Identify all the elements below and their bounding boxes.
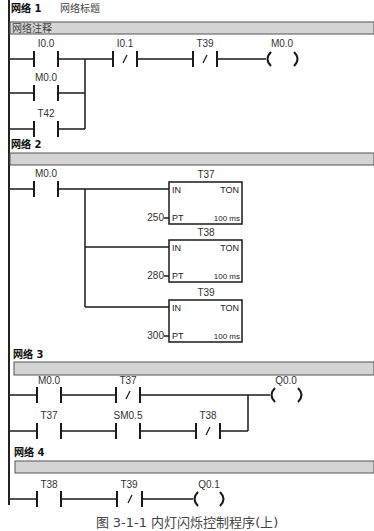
svg-text:T37: T37 bbox=[119, 375, 137, 386]
svg-text:100 ms: 100 ms bbox=[214, 332, 240, 341]
svg-text:T38: T38 bbox=[199, 410, 217, 421]
contact-nc-t39[interactable]: T39 bbox=[193, 38, 217, 67]
svg-text:TON: TON bbox=[220, 303, 239, 313]
svg-text:SM0.5: SM0.5 bbox=[114, 410, 143, 421]
network-1-label: 网络 1 bbox=[11, 2, 41, 14]
svg-text:IN: IN bbox=[172, 185, 181, 195]
timer-preset-t39[interactable]: 300 bbox=[147, 330, 164, 341]
coil-m0-0[interactable]: M0.0 bbox=[268, 38, 298, 66]
contact-no-t37[interactable]: T37 bbox=[37, 410, 61, 439]
svg-text:T39: T39 bbox=[196, 38, 214, 49]
network-4[interactable]: 网络 4 T38 T39 Q0.1 bbox=[10, 446, 374, 507]
coil-q0-0[interactable]: Q0.0 bbox=[272, 375, 302, 402]
svg-text:T38: T38 bbox=[40, 479, 58, 490]
svg-text:T38: T38 bbox=[197, 227, 215, 238]
svg-text:T39: T39 bbox=[120, 479, 138, 490]
svg-text:T42: T42 bbox=[37, 108, 55, 119]
contact-no-m0-0[interactable]: M0.0 bbox=[34, 168, 58, 197]
svg-text:100 ms: 100 ms bbox=[214, 214, 240, 223]
contact-nc-t37[interactable]: T37 bbox=[116, 375, 140, 403]
network-4-comment-bar[interactable] bbox=[15, 461, 374, 473]
svg-text:Q0.0: Q0.0 bbox=[275, 375, 297, 386]
svg-text:PT: PT bbox=[172, 213, 184, 223]
contact-no-t42-branch[interactable]: T42 bbox=[34, 108, 58, 137]
network-1[interactable]: 网络 1 网络标题 网络注释 I0.0 I0.1 bbox=[10, 2, 374, 137]
network-2-label: 网络 2 bbox=[11, 138, 41, 150]
svg-text:M0.0: M0.0 bbox=[38, 375, 61, 386]
svg-text:T37: T37 bbox=[197, 169, 215, 180]
network-1-comment-bar[interactable] bbox=[10, 22, 374, 34]
svg-text:I0.1: I0.1 bbox=[117, 38, 134, 49]
svg-text:TON: TON bbox=[220, 185, 239, 195]
svg-text:Q0.1: Q0.1 bbox=[198, 479, 220, 490]
timer-box-t38[interactable]: T38 IN TON PT 100 ms 280 bbox=[147, 227, 242, 282]
svg-text:M0.0: M0.0 bbox=[35, 168, 58, 179]
svg-text:M0.0: M0.0 bbox=[35, 72, 58, 83]
contact-no-i0-0[interactable]: I0.0 bbox=[34, 38, 58, 67]
svg-text:T37: T37 bbox=[40, 410, 58, 421]
contact-nc-t38[interactable]: T38 bbox=[196, 410, 220, 439]
contact-no-m0-0-n3[interactable]: M0.0 bbox=[37, 375, 61, 403]
svg-text:T39: T39 bbox=[197, 287, 215, 298]
timer-box-t39[interactable]: T39 IN TON PT 100 ms 300 bbox=[147, 287, 242, 342]
svg-text:IN: IN bbox=[172, 243, 181, 253]
network-1-title[interactable]: 网络标题 bbox=[60, 2, 100, 14]
network-3[interactable]: 网络 3 M0.0 T37 Q0.0 T bbox=[10, 348, 374, 439]
figure-caption: 图 3-1-1 内灯闪烁控制程序(上) bbox=[0, 512, 374, 531]
svg-text:IN: IN bbox=[172, 303, 181, 313]
network-2-comment-bar[interactable] bbox=[10, 153, 374, 165]
timer-preset-t37[interactable]: 250 bbox=[147, 212, 164, 223]
svg-text:M0.0: M0.0 bbox=[271, 38, 294, 49]
svg-text:TON: TON bbox=[220, 243, 239, 253]
coil-q0-1[interactable]: Q0.1 bbox=[195, 479, 224, 506]
svg-text:PT: PT bbox=[172, 271, 184, 281]
network-2[interactable]: 网络 2 M0.0 T37 IN TON PT 100 ms 250 T3 bbox=[10, 138, 374, 342]
timer-preset-t38[interactable]: 280 bbox=[147, 270, 164, 281]
contact-no-t38[interactable]: T38 bbox=[37, 479, 61, 507]
svg-text:PT: PT bbox=[172, 331, 184, 341]
svg-text:I0.0: I0.0 bbox=[38, 38, 55, 49]
network-3-label: 网络 3 bbox=[13, 348, 43, 360]
network-3-comment-bar[interactable] bbox=[14, 362, 374, 375]
contact-nc-i0-1[interactable]: I0.1 bbox=[113, 38, 137, 67]
svg-text:100 ms: 100 ms bbox=[214, 272, 240, 281]
timer-box-t37[interactable]: T37 IN TON PT 100 ms 250 bbox=[147, 169, 242, 224]
network-4-label: 网络 4 bbox=[14, 446, 44, 458]
contact-no-m0-0-branch[interactable]: M0.0 bbox=[34, 72, 58, 101]
contact-nc-t39-n4[interactable]: T39 bbox=[117, 479, 142, 507]
network-1-comment: 网络注释 bbox=[12, 22, 52, 34]
contact-no-sm0-5[interactable]: SM0.5 bbox=[114, 410, 143, 439]
